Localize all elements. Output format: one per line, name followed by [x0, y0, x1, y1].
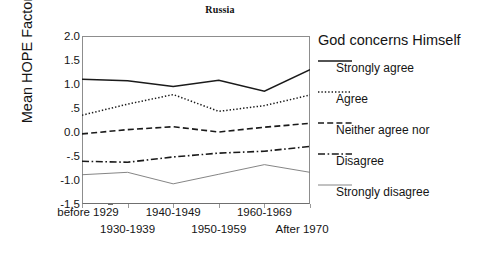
legend-label: Neither agree nor [336, 123, 429, 137]
legend-label: Agree [336, 92, 368, 106]
series-line [82, 70, 310, 92]
y-tick-label: 2.0 [36, 30, 80, 42]
legend-label: Strongly disagree [336, 185, 429, 199]
legend-title: God concerns Himself [318, 32, 461, 48]
plot-series-layer [82, 36, 310, 204]
y-tick-label: -1.0 [36, 174, 80, 186]
x-tick-label: 1960-1969 [237, 206, 292, 218]
y-tick-label: 1.0 [36, 78, 80, 90]
x-tick-label: 1930-1939 [100, 223, 155, 235]
series-line [82, 95, 310, 116]
y-tick-label: .5 [36, 102, 80, 114]
legend-label: Disagree [336, 154, 384, 168]
x-tick-label: 1950-1959 [191, 223, 246, 235]
y-tick-mark [108, 204, 113, 205]
x-tick-label: 1940-1949 [146, 206, 201, 218]
x-tick-mark [310, 204, 311, 208]
x-tick-mark [128, 204, 129, 208]
y-tick-label: 0.0 [36, 126, 80, 138]
y-tick-label: 1.5 [36, 54, 80, 66]
y-axis-ticks: 2.01.51.0.50.0-.5-1.0-1.5 [30, 0, 80, 265]
series-line [82, 165, 310, 184]
series-line [82, 146, 310, 162]
x-tick-mark [219, 204, 220, 208]
chart-figure: Russia Mean HOPE Factor 2.01.51.0.50.0-.… [0, 0, 495, 265]
series-line [82, 123, 310, 134]
legend-label: Strongly agree [336, 61, 414, 75]
x-tick-label: After 1970 [275, 223, 328, 235]
y-tick-label: -.5 [36, 150, 80, 162]
x-tick-label: before 1929 [57, 206, 118, 218]
